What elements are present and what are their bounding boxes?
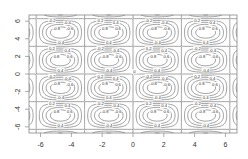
contour-label: -0.2 xyxy=(194,101,202,106)
contour-label: -0.2 xyxy=(48,74,56,79)
contour-label: 0.8 xyxy=(199,26,205,31)
contour-label: 0.2 xyxy=(194,74,200,79)
contour-label: 0.4 xyxy=(64,103,70,108)
y-axis: -6-4-20246 xyxy=(14,19,29,130)
contour-label: -0.2 xyxy=(145,74,153,79)
contour-label: 0.2 xyxy=(49,46,55,51)
contour-label: 0.2 xyxy=(194,18,200,23)
contour-label: 0.6 xyxy=(164,109,170,114)
contour-line xyxy=(29,15,237,133)
y-tick-label: 0 xyxy=(14,72,21,76)
contour-label: -0.6 xyxy=(114,109,122,114)
contour-label: -0.4 xyxy=(112,103,120,108)
y-tick-label: -4 xyxy=(14,106,21,112)
contour-label: -0.8 xyxy=(101,54,109,59)
contour-label: -0.2 xyxy=(97,46,105,51)
contour-label: 0.6 xyxy=(115,26,121,31)
contour-label: 0.4 xyxy=(203,95,209,100)
x-tick-label: -6 xyxy=(37,141,43,148)
y-tick-label: 6 xyxy=(14,19,21,23)
contour-label: -0.4 xyxy=(105,68,113,73)
contour-label: -0.2 xyxy=(145,18,153,23)
contour-label: -0.8 xyxy=(150,81,158,86)
contour-label: 0.8 xyxy=(150,109,156,114)
contour-label: 0.4 xyxy=(106,95,112,100)
contour-label: 0.6 xyxy=(212,82,218,87)
contour-label: 0.4 xyxy=(203,40,209,45)
contour-label: -0.4 xyxy=(57,40,65,45)
contour-label: -0.2 xyxy=(97,101,105,106)
contour-label: -0.8 xyxy=(53,26,61,31)
contour-label: -0.4 xyxy=(209,48,217,53)
contour-label: 0.6 xyxy=(115,82,121,87)
contour-label: 0.4 xyxy=(57,68,63,73)
contour-label: -0.6 xyxy=(211,54,219,59)
x-tick-label: -2 xyxy=(99,141,105,148)
contour-label: -0.4 xyxy=(64,76,72,81)
contour-label: -0.4 xyxy=(57,95,65,100)
contour-label: -0.8 xyxy=(198,54,206,59)
contour-label: 0.6 xyxy=(212,26,218,31)
x-tick-label: -4 xyxy=(68,141,74,148)
y-tick-label: 4 xyxy=(14,37,21,41)
contour-label: 0.8 xyxy=(150,54,156,59)
contour-label: 0.2 xyxy=(49,101,55,106)
contour-label: 0.4 xyxy=(106,40,112,45)
contour-label: -0.4 xyxy=(154,95,162,100)
x-tick-label: 6 xyxy=(223,141,227,148)
contour-label: -0.4 xyxy=(161,20,169,25)
contour-label: 0.6 xyxy=(67,109,73,114)
contour-lines xyxy=(29,15,237,133)
contour-label: 0.4 xyxy=(161,48,167,53)
contour-labels: 0.20.40.80.60.4-0.2-0.4-0.8-0.6-0.40.20.… xyxy=(48,18,219,128)
contour-label: -0.6 xyxy=(66,26,74,31)
contour-plot: 0.20.40.80.60.4-0.2-0.4-0.8-0.6-0.40.20.… xyxy=(0,0,248,159)
x-tick-label: 4 xyxy=(193,141,197,148)
contour-label: -0.4 xyxy=(154,40,162,45)
contour-label: -0.6 xyxy=(66,82,74,87)
contour-label: -0.8 xyxy=(53,81,61,86)
contour-label: -0.2 xyxy=(48,18,56,23)
contour-label: 0.8 xyxy=(102,81,108,86)
contour-label: 0.4 xyxy=(154,68,160,73)
y-tick-label: -6 xyxy=(14,124,21,130)
contour-label: 0.8 xyxy=(199,81,205,86)
contour-label: -0.4 xyxy=(202,68,210,73)
contour-label: 0.8 xyxy=(102,26,108,31)
y-tick-label: -2 xyxy=(14,88,21,94)
contour-label: 0.8 xyxy=(54,109,60,114)
contour-label: -0.4 xyxy=(202,123,210,128)
contour-label: -0.8 xyxy=(198,109,206,114)
x-tick-label: 0 xyxy=(131,141,135,148)
contour-label: 0.4 xyxy=(210,20,216,25)
x-tick-label: 2 xyxy=(162,141,166,148)
contour-label: -0.4 xyxy=(112,48,120,53)
contour-label: 0.4 xyxy=(161,103,167,108)
contour-label: -0.6 xyxy=(163,82,171,87)
contour-label: 0.4 xyxy=(210,76,216,81)
contour-label: -0.6 xyxy=(211,109,219,114)
contour-label: -0.8 xyxy=(150,26,158,31)
contour-label: 0.4 xyxy=(154,123,160,128)
contour-label: 0.2 xyxy=(97,74,103,79)
contour-label: 0.4 xyxy=(64,48,70,53)
contour-label: -0.4 xyxy=(64,20,72,25)
contour-label: -0.8 xyxy=(101,109,109,114)
contour-label: 0.4 xyxy=(57,123,63,128)
contour-label: 0.4 xyxy=(113,76,119,81)
contour-label: 0.6 xyxy=(67,54,73,59)
x-axis: -6-4-20246 xyxy=(37,133,227,148)
contour-label: 0.2 xyxy=(97,18,103,23)
contour-label: -0.6 xyxy=(163,26,171,31)
contour-label: -0.4 xyxy=(209,103,217,108)
contour-label: 0.6 xyxy=(164,54,170,59)
contour-label: -0.4 xyxy=(161,76,169,81)
contour-label: 0.4 xyxy=(113,20,119,25)
contour-label: -0.4 xyxy=(105,123,113,128)
contour-label: 0.8 xyxy=(54,54,60,59)
contour-label: -0.2 xyxy=(194,46,202,51)
contour-label: -0.6 xyxy=(114,54,122,59)
contour-label: 0.2 xyxy=(146,46,152,51)
y-tick-label: 2 xyxy=(14,54,21,58)
contour-label: 0.2 xyxy=(146,101,152,106)
